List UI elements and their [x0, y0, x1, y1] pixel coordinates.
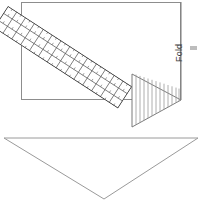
hatched-triangle — [132, 74, 181, 127]
fold-label: Fold — [175, 44, 184, 62]
right-edge-mark — [190, 46, 197, 50]
ruler-overlay — [0, 6, 132, 108]
diagram-svg — [0, 0, 203, 203]
diagram-canvas: Fold — [0, 0, 203, 203]
lower-triangle — [4, 138, 198, 199]
